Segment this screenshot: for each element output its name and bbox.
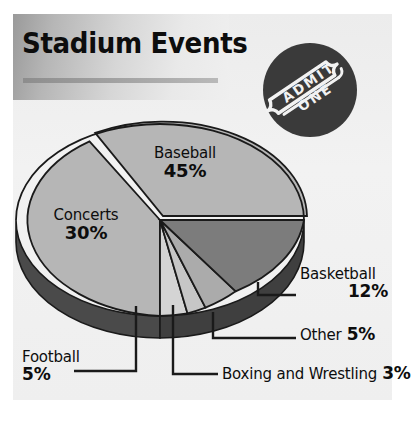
slice-label-football-pct: 5% — [22, 365, 80, 383]
slice-label-baseball: Baseball 45% — [139, 146, 231, 181]
slice-label-basketball: Basketball 12% — [300, 266, 388, 301]
slice-label-other-pct: 5% — [347, 324, 375, 344]
page-title: Stadium Events — [22, 26, 229, 60]
slice-label-other: Other 5% — [300, 325, 375, 343]
slice-label-boxing-pct: 3% — [382, 363, 410, 383]
slice-label-boxing-name: Boxing and Wrestling — [222, 365, 377, 383]
slice-label-boxing-and-wrestling: Boxing and Wrestling 3% — [222, 364, 411, 382]
slice-label-basketball-pct: 12% — [300, 282, 388, 300]
slice-label-concerts-pct: 30% — [38, 224, 134, 243]
slice-label-football-name: Football — [22, 349, 80, 365]
slice-label-concerts: Concerts 30% — [38, 208, 134, 243]
slice-label-football: Football 5% — [22, 349, 80, 384]
slice-label-other-name: Other — [300, 326, 342, 344]
slice-label-baseball-pct: 45% — [139, 162, 231, 181]
slice-label-basketball-name: Basketball — [300, 266, 388, 282]
title-underline-rule — [23, 78, 218, 83]
